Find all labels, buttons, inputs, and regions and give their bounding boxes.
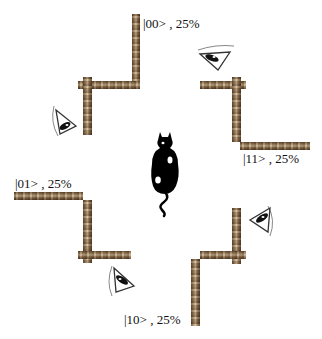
wall-segment xyxy=(240,142,310,150)
wall-segment xyxy=(14,192,83,200)
outcome-label-11: |11> , 25% xyxy=(243,152,299,165)
wall-segment xyxy=(78,251,131,259)
outcome-label-00: |00> , 25% xyxy=(143,17,200,30)
outcome-label-01: |01> , 25% xyxy=(15,177,72,190)
cat-icon xyxy=(148,130,182,218)
eye-icon xyxy=(196,44,236,74)
wall-segment xyxy=(232,77,241,142)
eye-icon xyxy=(246,204,278,238)
eye-icon xyxy=(106,264,138,298)
outcome-label-10: |10> , 25% xyxy=(124,313,181,326)
wall-segment xyxy=(200,251,246,259)
eye-icon xyxy=(48,104,80,140)
wall-segment xyxy=(132,14,140,82)
wall-segment xyxy=(191,259,200,326)
wall-segment xyxy=(83,77,92,135)
